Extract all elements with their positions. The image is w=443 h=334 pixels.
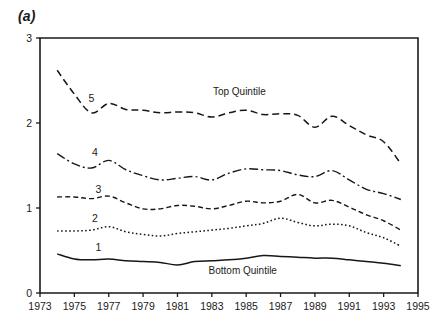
x-tick-label: 1973 <box>28 300 52 312</box>
series-annotation-1: Bottom Quintile <box>209 265 278 276</box>
labels-layer: 5Top Quintile4321Bottom Quintile <box>89 86 278 276</box>
x-tick-label: 1989 <box>303 300 327 312</box>
x-tick-label: 1987 <box>269 300 293 312</box>
x-tick-label: 1983 <box>200 300 224 312</box>
series-line-3 <box>57 194 401 230</box>
series-annotation-5: Top Quintile <box>213 86 266 97</box>
line-chart: 0123197319751977197919811983198519871989… <box>0 0 443 334</box>
curve-label-4: 4 <box>92 146 98 158</box>
x-tick-label: 1981 <box>166 300 190 312</box>
series-line-4 <box>57 154 401 200</box>
x-tick-label: 1985 <box>235 300 259 312</box>
x-tick-label: 1991 <box>338 300 362 312</box>
figure-panel: (a) 012319731975197719791981198319851987… <box>0 0 443 334</box>
x-tick-label: 1993 <box>372 300 396 312</box>
x-tick-label: 1995 <box>406 300 430 312</box>
curve-label-2: 2 <box>92 212 98 224</box>
y-tick-label: 3 <box>26 32 32 44</box>
series-line-1 <box>57 254 401 266</box>
x-tick-label: 1975 <box>63 300 87 312</box>
series-layer <box>57 70 401 265</box>
plot-frame <box>40 38 418 293</box>
curve-label-1: 1 <box>95 241 101 253</box>
series-line-2 <box>57 218 401 246</box>
x-tick-label: 1977 <box>97 300 121 312</box>
series-line-5 <box>57 70 401 164</box>
x-tick-label: 1979 <box>131 300 155 312</box>
y-tick-label: 2 <box>26 117 32 129</box>
curve-label-3: 3 <box>95 183 101 195</box>
curve-label-5: 5 <box>89 92 95 104</box>
y-tick-label: 0 <box>26 287 32 299</box>
y-tick-label: 1 <box>26 202 32 214</box>
